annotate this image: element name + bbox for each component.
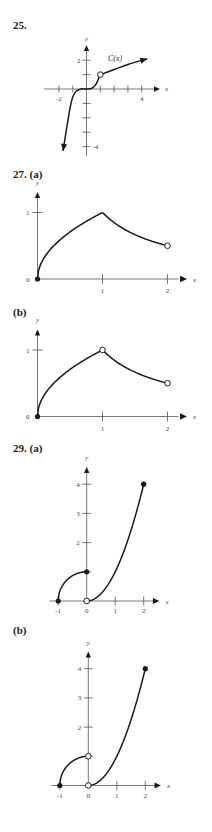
x-tick-label: 0 bbox=[87, 792, 91, 800]
graph-29b: xy-1012234 bbox=[0, 0, 212, 832]
x-tick-label: -1 bbox=[57, 792, 63, 800]
function-curve bbox=[60, 756, 89, 785]
x-axis-label: x bbox=[166, 782, 171, 790]
y-axis-arrow-icon bbox=[86, 652, 91, 658]
open-point-marker bbox=[86, 783, 92, 789]
x-tick-label: 1 bbox=[115, 792, 119, 800]
filled-point-marker bbox=[57, 783, 62, 788]
function-curve bbox=[88, 669, 145, 786]
y-axis-label: y bbox=[86, 639, 91, 647]
y-tick-label: 4 bbox=[78, 665, 82, 673]
x-tick-label: 2 bbox=[144, 792, 148, 800]
open-point-marker bbox=[86, 754, 92, 760]
filled-point-marker bbox=[143, 666, 148, 671]
y-tick-label: 2 bbox=[78, 724, 82, 732]
y-tick-label: 3 bbox=[78, 694, 82, 702]
x-axis-arrow-icon bbox=[154, 783, 161, 789]
